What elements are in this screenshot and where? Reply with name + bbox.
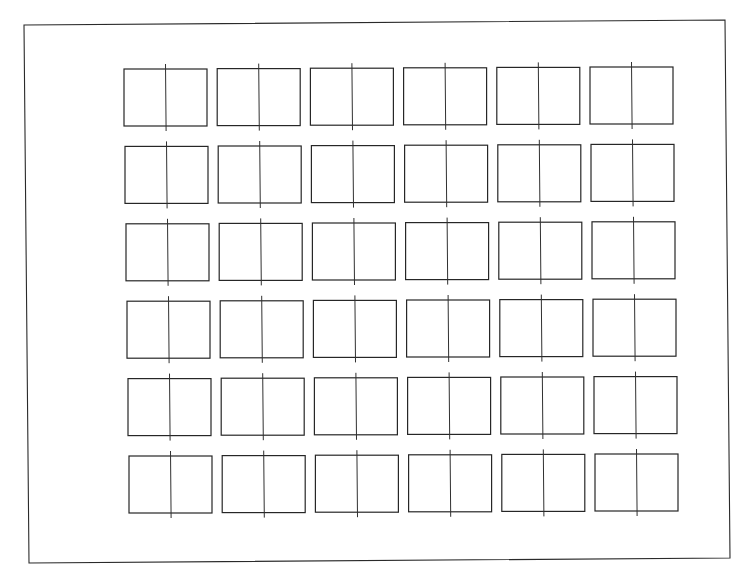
grid-cell	[593, 294, 676, 361]
cell-divider-line	[355, 295, 356, 362]
grid-cell	[405, 140, 488, 207]
cell-divider-line	[168, 219, 169, 286]
grid-cell	[217, 64, 300, 131]
grid-cell	[311, 141, 394, 208]
cell-divider-line	[445, 63, 446, 130]
grid-cell	[126, 219, 209, 286]
cell-divider-line	[352, 63, 353, 130]
cell-divider-line	[634, 217, 635, 284]
grid-cell	[219, 218, 302, 285]
grid-cell	[498, 140, 581, 207]
grid-cell	[497, 62, 580, 129]
cell-divider-line	[169, 296, 170, 363]
cell-divider-line	[259, 64, 260, 131]
grid-cell	[591, 139, 674, 206]
grid-cell	[221, 373, 304, 440]
grid-cell	[499, 217, 582, 284]
cell-divider-line	[450, 450, 451, 517]
cell-divider-line	[542, 372, 543, 439]
grid-cell	[128, 374, 211, 441]
grid-cell	[127, 296, 210, 363]
cell-divider-line	[543, 449, 544, 516]
cell-divider-line	[447, 218, 448, 285]
grid-cell	[310, 63, 393, 130]
cell-divider-line	[636, 372, 637, 439]
grid-cell	[595, 449, 678, 516]
grid-cell	[315, 450, 398, 517]
cell-divider-line	[260, 141, 261, 208]
cell-divider-line	[171, 451, 172, 518]
cell-divider-line	[540, 217, 541, 284]
grid-cell	[592, 217, 675, 284]
diagram-canvas	[0, 0, 749, 575]
cell-divider-line	[356, 373, 357, 440]
cell-divider-line	[263, 373, 264, 440]
grid-cell	[502, 449, 585, 516]
grid-cell	[500, 295, 583, 362]
grid-cell	[312, 218, 395, 285]
grid-cell	[408, 372, 491, 439]
grid-cell	[406, 218, 489, 285]
cell-divider-line	[637, 449, 638, 516]
cell-divider-line	[633, 139, 634, 206]
grid-cell	[218, 141, 301, 208]
grid-cell	[125, 141, 208, 208]
cell-divider-line	[357, 450, 358, 517]
grid-cell	[222, 451, 305, 518]
grid-cell	[313, 295, 396, 362]
cell-divider-line	[354, 218, 355, 285]
grid-cell	[501, 372, 584, 439]
grid-cell	[220, 296, 303, 363]
grid-cell	[590, 62, 673, 129]
cell-divider-line	[632, 62, 633, 129]
grid-cell	[594, 372, 677, 439]
grid-cell	[124, 64, 207, 131]
cell-divider-line	[448, 295, 449, 362]
cell-divider-line	[264, 451, 265, 518]
grid-cell	[314, 373, 397, 440]
cell-divider-line	[262, 296, 263, 363]
cell-divider-line	[539, 140, 540, 207]
cell-divider-line	[167, 141, 168, 208]
cell-divider-line	[635, 294, 636, 361]
grid-cell	[407, 295, 490, 362]
cell-divider-line	[541, 295, 542, 362]
cell-divider-line	[166, 64, 167, 131]
grid-cell	[404, 63, 487, 130]
cell-divider-line	[170, 374, 171, 441]
cell-divider-line	[353, 141, 354, 208]
cell-grid	[124, 62, 678, 518]
cell-divider-line	[538, 62, 539, 129]
cell-divider-line	[446, 140, 447, 207]
grid-cell	[409, 450, 492, 517]
cell-divider-line	[449, 372, 450, 439]
cell-divider-line	[261, 218, 262, 285]
grid-cell	[129, 451, 212, 518]
